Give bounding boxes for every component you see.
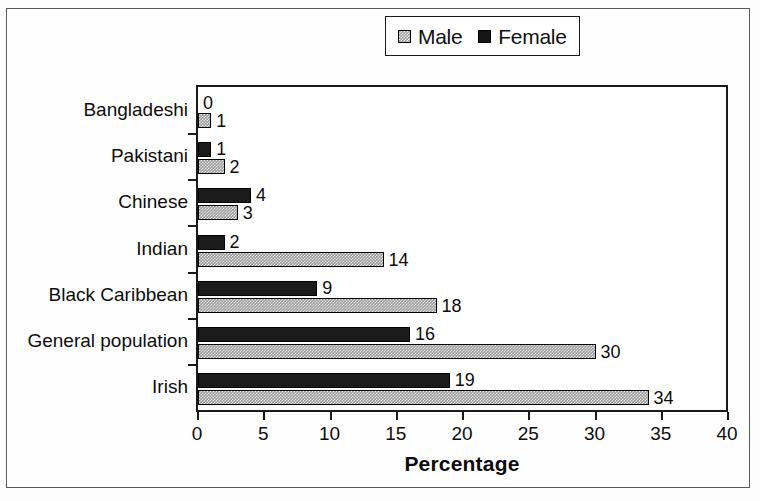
bar-value-female-irish: 19 [455, 371, 475, 389]
bar-value-female-pakistani: 1 [216, 140, 226, 158]
legend-swatch-male-icon [398, 30, 411, 43]
x-axis-tick [330, 412, 332, 420]
bar-female-chinese [198, 188, 251, 203]
bar-female-black-caribbean [198, 281, 317, 296]
plot-area: 01124321491816301934 [196, 85, 728, 412]
y-axis-tick [188, 133, 196, 135]
x-axis-tick-label: 30 [584, 424, 605, 443]
y-axis-label-bangladeshi: Bangladeshi [83, 100, 188, 119]
y-axis-label-pakistani: Pakistani [111, 146, 188, 165]
bar-value-male-pakistani: 2 [230, 158, 240, 176]
x-axis-tick-label: 25 [518, 424, 539, 443]
bar-value-female-chinese: 4 [256, 186, 266, 204]
bar-female-general-population [198, 327, 410, 342]
x-axis-tick [462, 412, 464, 420]
legend-label-male: Male [418, 26, 462, 47]
bar-value-female-general-population: 16 [415, 325, 435, 343]
legend-label-female: Female [498, 26, 566, 47]
bar-male-indian [198, 252, 384, 267]
bar-value-male-general-population: 30 [601, 343, 621, 361]
y-axis-label-irish: Irish [152, 377, 188, 396]
bar-male-pakistani [198, 159, 225, 174]
y-axis-tick [188, 225, 196, 227]
x-axis-tick-label: 5 [258, 424, 269, 443]
y-axis-label-chinese: Chinese [118, 192, 188, 211]
x-axis-tick-label: 35 [650, 424, 671, 443]
bar-male-chinese [198, 205, 238, 220]
y-axis-tick [188, 318, 196, 320]
bar-value-male-irish: 34 [654, 389, 674, 407]
legend-entry-female: Female [478, 26, 566, 47]
y-axis-category-labels: BangladeshiPakistaniChineseIndianBlack C… [0, 85, 188, 412]
bar-male-general-population [198, 344, 596, 359]
bar-value-male-indian: 14 [389, 251, 409, 269]
x-axis-tick [197, 412, 199, 420]
bar-female-irish [198, 373, 450, 388]
y-axis-label-general-population: General population [27, 331, 188, 350]
bar-female-pakistani [198, 142, 211, 157]
x-axis-tick-label: 20 [451, 424, 472, 443]
bar-female-indian [198, 235, 225, 250]
y-axis-tick [188, 364, 196, 366]
legend-swatch-female-icon [478, 30, 491, 43]
y-axis-tick [188, 179, 196, 181]
x-axis-tick-label: 15 [385, 424, 406, 443]
x-axis-title: Percentage [196, 452, 728, 476]
chart-figure: Male Female BangladeshiPakistaniChineseI… [0, 0, 760, 501]
y-axis-tick [188, 272, 196, 274]
x-axis-tick-label: 10 [319, 424, 340, 443]
x-axis-tick [727, 412, 729, 420]
chart-legend: Male Female [385, 16, 580, 56]
x-axis-tick-label: 40 [716, 424, 737, 443]
bar-male-bangladeshi [198, 113, 211, 128]
bar-male-black-caribbean [198, 298, 437, 313]
x-axis-tick [661, 412, 663, 420]
y-axis-label-indian: Indian [136, 239, 188, 258]
y-axis-label-black-caribbean: Black Caribbean [49, 285, 188, 304]
bar-male-irish [198, 390, 649, 405]
bar-value-male-black-caribbean: 18 [442, 297, 462, 315]
legend-entry-male: Male [398, 26, 462, 47]
x-axis-tick [263, 412, 265, 420]
x-axis-tick [528, 412, 530, 420]
bar-value-male-bangladeshi: 1 [216, 112, 226, 130]
bar-value-female-black-caribbean: 9 [322, 279, 332, 297]
x-axis-tick [396, 412, 398, 420]
x-axis-tick [595, 412, 597, 420]
bar-value-female-bangladeshi: 0 [203, 94, 213, 112]
bar-value-female-indian: 2 [230, 233, 240, 251]
bar-value-male-chinese: 3 [243, 204, 253, 222]
x-axis-tick-label: 0 [192, 424, 203, 443]
